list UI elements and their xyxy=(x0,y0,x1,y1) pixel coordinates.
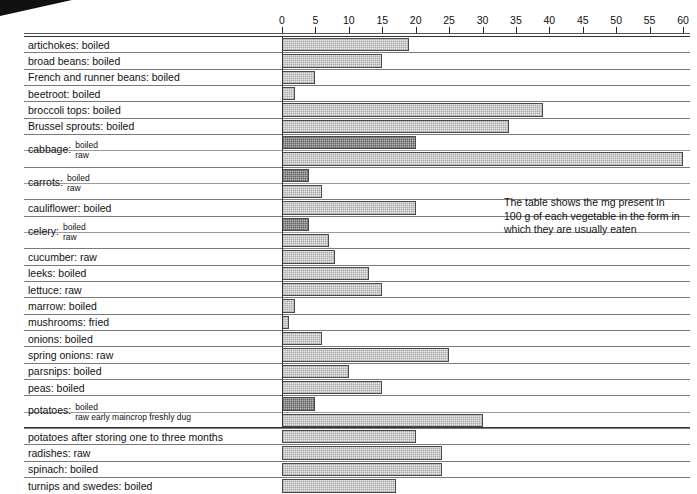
bar xyxy=(282,332,322,345)
row-label: spinach: boiled xyxy=(28,462,98,477)
chart-row: raw early maincrop freshly dug xyxy=(24,413,690,429)
bar xyxy=(282,414,483,427)
row-label: cauliflower: boiled xyxy=(28,200,111,215)
bar xyxy=(282,479,396,493)
chart-row: spring onions: raw xyxy=(24,347,690,363)
row-state-label: boiled xyxy=(75,396,98,411)
row-state-label: boiled xyxy=(75,135,98,150)
chart-row: artichokes: boiled xyxy=(24,37,690,53)
bar xyxy=(282,348,449,361)
row-state-label: boiled xyxy=(67,168,90,183)
axis-tick-label: 45 xyxy=(577,14,589,26)
chart-row: radishes: raw xyxy=(24,445,690,461)
row-group-label: cabbage: xyxy=(28,143,71,155)
bar xyxy=(282,283,382,296)
axis-tick-label: 20 xyxy=(410,14,422,26)
row-label: mushrooms: fried xyxy=(28,315,109,330)
chart-row: raw xyxy=(24,151,690,167)
chart-row: carrots:boiled xyxy=(24,168,690,184)
row-group-label: celery: xyxy=(28,225,59,237)
bar xyxy=(282,446,442,459)
axis-tick-label: 60 xyxy=(677,14,689,26)
row-group-label: carrots: xyxy=(28,176,63,188)
axis-tick-label: 10 xyxy=(343,14,355,26)
axis-tick-label: 5 xyxy=(312,14,318,26)
chart-row: beetroot: boiled xyxy=(24,86,690,102)
axis-tick-label: 50 xyxy=(610,14,622,26)
bar xyxy=(282,201,416,214)
row-label: Brussel sprouts: boiled xyxy=(28,119,134,134)
bar xyxy=(282,365,349,378)
chart-row: cabbage:boiled xyxy=(24,135,690,151)
row-label: French and runner beans: boiled xyxy=(28,70,180,85)
chart-row: Brussel sprouts: boiled xyxy=(24,119,690,135)
bar xyxy=(282,397,315,410)
axis-tick-label: 0 xyxy=(279,14,285,26)
row-label: onions: boiled xyxy=(28,331,93,346)
row-state-label: raw early maincrop freshly dug xyxy=(75,413,191,428)
row-label: marrow: boiled xyxy=(28,298,97,313)
chart-row: mushrooms: fried xyxy=(24,315,690,331)
chart-row: broccoli tops: boiled xyxy=(24,102,690,118)
chart-row: peas: boiled xyxy=(24,380,690,396)
row-label: radishes: raw xyxy=(28,445,90,460)
axis-tick-label: 55 xyxy=(644,14,656,26)
bar xyxy=(282,54,382,67)
chart-row: potatoes after storing one to three mont… xyxy=(24,429,690,445)
x-axis-rule xyxy=(24,33,690,34)
chart-row: cucumber: raw xyxy=(24,249,690,265)
row-label: leeks: boiled xyxy=(28,266,86,281)
row-label: broccoli tops: boiled xyxy=(28,102,121,117)
bar xyxy=(282,234,329,247)
axis-tick-label: 25 xyxy=(443,14,455,26)
axis-tick-label: 15 xyxy=(376,14,388,26)
bar xyxy=(282,152,683,165)
bar xyxy=(282,381,382,394)
row-label: peas: boiled xyxy=(28,380,85,395)
bar xyxy=(282,299,295,312)
bar xyxy=(282,38,409,51)
row-label: spring onions: raw xyxy=(28,347,113,362)
axis-tick-label: 40 xyxy=(543,14,555,26)
bar xyxy=(282,169,309,182)
bar xyxy=(282,136,416,149)
bar xyxy=(282,316,289,329)
row-state-label: boiled xyxy=(63,217,86,232)
row-group-label: potatoes: xyxy=(28,404,71,416)
chart-row: leeks: boiled xyxy=(24,266,690,282)
chart-row: lettuce: raw xyxy=(24,282,690,298)
row-state-label: raw xyxy=(67,184,81,199)
bar xyxy=(282,267,369,280)
row-state-label: raw xyxy=(75,151,89,166)
zero-axis-line xyxy=(282,37,283,427)
bar xyxy=(282,103,543,116)
row-label: artichokes: boiled xyxy=(28,37,110,52)
row-label: beetroot: boiled xyxy=(28,86,100,101)
axis-tick-label: 35 xyxy=(510,14,522,26)
row-label: lettuce: raw xyxy=(28,282,82,297)
bar xyxy=(282,185,322,198)
chart-row: broad beans: boiled xyxy=(24,53,690,69)
row-state-label: raw xyxy=(63,233,77,248)
bar xyxy=(282,250,335,263)
bar xyxy=(282,120,509,133)
row-label: broad beans: boiled xyxy=(28,53,120,68)
chart-row: spinach: boiled xyxy=(24,462,690,478)
chart-annotation: The table shows the mg present in 100 g … xyxy=(504,196,684,237)
chart-row: marrow: boiled xyxy=(24,298,690,314)
row-label: potatoes after storing one to three mont… xyxy=(28,429,223,444)
row-label: turnips and swedes: boiled xyxy=(28,478,152,494)
chart-row: potatoes:boiled xyxy=(24,396,690,412)
chart-row: turnips and swedes: boiled xyxy=(24,478,690,494)
bar xyxy=(282,430,416,443)
chart-row: parsnips: boiled xyxy=(24,364,690,380)
axis-tick-label: 30 xyxy=(477,14,489,26)
bar xyxy=(282,87,295,100)
row-label: parsnips: boiled xyxy=(28,364,102,379)
chart-row: French and runner beans: boiled xyxy=(24,70,690,86)
chart-row: onions: boiled xyxy=(24,331,690,347)
bar xyxy=(282,218,309,231)
bar xyxy=(282,71,315,84)
bar xyxy=(282,463,442,476)
